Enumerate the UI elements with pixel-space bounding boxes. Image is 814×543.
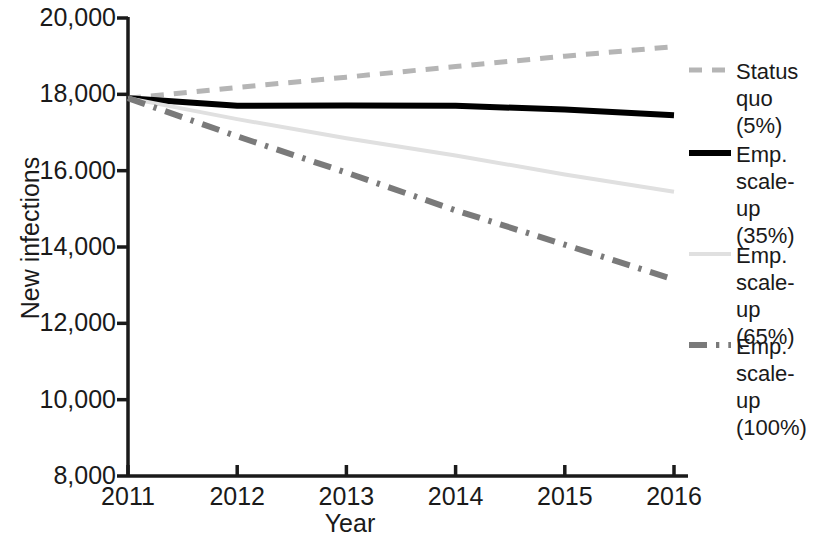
legend-swatch-dashdot-icon [688,334,732,356]
legend-swatch-solid-icon [688,243,732,265]
y-axis-tick-label: 18,000 [18,81,116,106]
y-axis-title: New infections [17,118,43,358]
x-axis-tick-label-text: 2011 [73,482,183,510]
legend-swatch-dashed-icon [688,59,732,81]
series-line-3 [128,98,674,279]
legend-swatch-solid-icon [688,142,732,164]
legend-entry: Emp. scale-up (35%) [688,141,814,249]
x-axis-tick-label: 2016 [619,482,729,510]
x-axis-tick-label: 2014 [401,482,511,510]
legend-entry: Status quo (5%) [688,58,814,139]
x-axis-tick-label: 2011 [73,482,183,510]
legend-label: Status quo (5%) [736,58,814,139]
legend-entry: Emp. scale-up (100%) [688,333,814,441]
x-axis-title: Year [0,509,700,537]
series-line-0 [128,47,674,99]
legend-label: Emp. scale-up (35%) [736,141,814,249]
chart-figure: 8,00010,00012,00014,00016.00018,00020,00… [0,0,814,543]
x-axis-tick-label-text: 2015 [510,482,620,510]
x-axis-tick-label-text: 2014 [401,482,511,510]
x-axis-tick-label: 2013 [291,482,401,510]
y-axis-tick-label-text: 20,000 [18,5,116,30]
x-axis-tick-label: 2015 [510,482,620,510]
y-axis-tick-label-text: 10,000 [18,387,116,412]
y-axis-tick-label-text: 18,000 [18,81,116,106]
x-axis-tick-label-text: 2016 [619,482,729,510]
x-axis-tick-label-text: 2013 [291,482,401,510]
y-axis-tick-label: 20,000 [18,5,116,30]
x-axis-tick-label-text: 2012 [182,482,292,510]
y-axis-tick-label: 10,000 [18,387,116,412]
legend-label: Emp. scale-up (100%) [736,333,814,441]
x-axis-tick-label: 2012 [182,482,292,510]
